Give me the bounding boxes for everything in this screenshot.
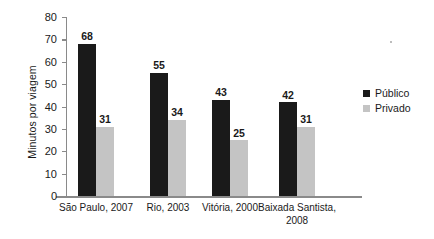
scan-speck — [390, 41, 392, 43]
bar-group: 4325 — [212, 17, 248, 196]
legend-swatch-icon — [363, 105, 370, 112]
x-category-label: Baixada Santista,2008 — [247, 201, 347, 227]
legend-swatch-icon — [363, 90, 370, 97]
bar-group: 5534 — [150, 17, 186, 196]
bar-value-label: 31 — [99, 113, 111, 125]
legend-item: Público — [363, 86, 434, 101]
y-tick-label: 50 — [45, 76, 57, 92]
bars-layer: 6831553443254231 — [66, 17, 362, 196]
y-tick-label: 70 — [45, 31, 57, 47]
plot-area: 01020304050607080 6831553443254231 — [66, 17, 362, 196]
legend-label: Público — [375, 87, 409, 100]
y-tick-label: 40 — [45, 99, 57, 115]
bar-value-label: 55 — [153, 59, 165, 71]
x-category-label-line: 2008 — [247, 214, 347, 227]
y-tick-label: 10 — [45, 166, 57, 182]
legend-label: Privado — [375, 102, 411, 115]
legend-item: Privado — [363, 101, 434, 116]
y-tick-label: 20 — [45, 143, 57, 159]
y-tick-label: 80 — [45, 9, 57, 25]
bar-group: 6831 — [78, 17, 114, 196]
bar-value-label: 68 — [81, 30, 93, 42]
bar-chart: Minutos por viagem 01020304050607080 683… — [0, 0, 434, 239]
bar-privado: 34 — [168, 120, 186, 196]
y-axis-title: Minutos por viagem — [26, 37, 38, 187]
bar-value-label: 31 — [300, 113, 312, 125]
bar-privado: 31 — [297, 127, 315, 196]
bar-publico: 55 — [150, 73, 168, 196]
bar-group: 4231 — [279, 17, 315, 196]
bar-privado: 25 — [230, 140, 248, 196]
x-axis-category-labels: São Paulo, 2007Rio, 2003Vitória, 2000Bai… — [66, 201, 366, 237]
x-category-label-line: Baixada Santista, — [247, 201, 347, 214]
chart-legend: PúblicoPrivado — [363, 86, 434, 116]
y-tick-label: 60 — [45, 54, 57, 70]
bar-privado: 31 — [96, 127, 114, 196]
y-tick-label: 30 — [45, 121, 57, 137]
bar-value-label: 25 — [233, 127, 245, 139]
bar-publico: 68 — [78, 44, 96, 196]
bar-value-label: 42 — [282, 89, 294, 101]
bar-publico: 43 — [212, 100, 230, 196]
x-axis-line — [56, 196, 362, 198]
bar-publico: 42 — [279, 102, 297, 196]
bar-value-label: 34 — [171, 106, 183, 118]
bar-value-label: 43 — [215, 86, 227, 98]
y-tick-mark — [62, 196, 67, 197]
